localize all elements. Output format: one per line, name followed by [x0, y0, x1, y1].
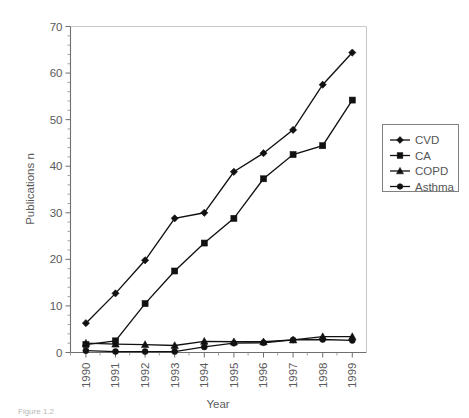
data-point [231, 340, 237, 346]
figure-caption: Figure 1.2 [18, 407, 55, 416]
data-point [201, 240, 207, 246]
data-point [290, 152, 296, 158]
y-tick-label: 10 [50, 300, 63, 312]
y-tick-label: 40 [50, 160, 63, 172]
y-axis-ticks [66, 27, 71, 353]
y-tick-label: 20 [50, 253, 63, 265]
x-tick-label: 1990 [80, 363, 92, 389]
legend-label: Asthma [415, 181, 455, 193]
series-cvd [82, 49, 356, 327]
y-axis-tick-labels: 010203040506070 [50, 21, 63, 359]
x-tick-label: 1995 [228, 363, 240, 389]
data-point [142, 349, 148, 355]
y-tick-label: 0 [56, 347, 62, 359]
x-tick-label: 1992 [139, 363, 151, 389]
figure-container: 010203040506070 199019911992199319941995… [0, 0, 469, 418]
data-point [83, 348, 89, 354]
data-point [320, 336, 326, 342]
line-chart: 010203040506070 199019911992199319941995… [0, 0, 469, 418]
x-tick-label: 1997 [287, 363, 299, 389]
y-tick-label: 50 [50, 114, 63, 126]
data-point [349, 337, 355, 343]
series-ca [83, 97, 355, 348]
data-point [231, 215, 237, 221]
data-point [349, 97, 355, 103]
y-axis-label: Publications n [24, 153, 36, 225]
chart-legend: CVDCACOPDAsthma [383, 125, 459, 193]
data-point [290, 337, 296, 343]
y-tick-label: 30 [50, 207, 63, 219]
legend-label: CVD [415, 134, 439, 146]
x-axis-label: Year [206, 398, 229, 410]
data-point [112, 349, 118, 355]
data-point [142, 301, 148, 307]
x-tick-label: 1998 [317, 363, 329, 389]
x-tick-label: 1996 [257, 363, 269, 389]
series-line [86, 100, 352, 345]
series-line [86, 53, 352, 324]
y-tick-label: 60 [50, 67, 63, 79]
legend-marker-circle-icon [397, 184, 403, 190]
data-series-group [82, 49, 356, 355]
series-asthma [83, 336, 355, 354]
x-axis-ticks [86, 353, 352, 358]
y-tick-label: 70 [50, 21, 63, 33]
x-tick-label: 1994 [198, 362, 210, 388]
series-copd [82, 333, 356, 349]
data-point [172, 349, 178, 355]
data-point [320, 143, 326, 149]
legend-label: CA [415, 150, 431, 162]
data-point [260, 340, 266, 346]
data-point [172, 268, 178, 274]
chart-svg: 010203040506070 199019911992199319941995… [0, 0, 469, 418]
x-tick-label: 1991 [109, 363, 121, 389]
legend-label: COPD [415, 165, 448, 177]
x-tick-label: 1993 [169, 363, 181, 389]
data-point [201, 344, 207, 350]
series-line [86, 337, 352, 346]
x-tick-label: 1999 [346, 363, 358, 389]
data-point [260, 176, 266, 182]
axes [71, 27, 367, 353]
x-axis-tick-labels: 1990199119921993199419951996199719981999 [80, 362, 358, 388]
legend-marker-square-icon [397, 153, 403, 159]
